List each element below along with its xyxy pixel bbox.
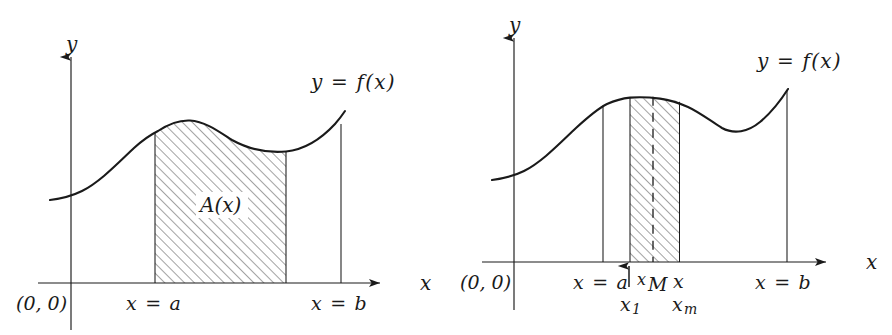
right-shaded-strip: [626, 92, 684, 267]
left-panel: y x (0, 0) y = f(x) x = a x = b A(x): [16, 32, 431, 330]
right-x1-subscript-base: 1: [632, 301, 641, 317]
right-xm-subscript: m: [684, 301, 697, 317]
left-area-label: A(x): [198, 193, 241, 217]
right-upper-bound-label: x = b: [755, 271, 812, 293]
left-y-axis-label: y: [65, 32, 78, 56]
left-x-axis-label: x: [420, 271, 431, 295]
right-x1-base: x: [620, 293, 631, 315]
right-origin-label: (0, 0): [460, 271, 511, 293]
right-strip-left-label: x: [637, 270, 646, 289]
right-lower-bound-label: x = a: [573, 271, 629, 293]
calculus-area-figure: y x (0, 0) y = f(x) x = a x = b A(x): [0, 0, 892, 335]
right-y-axis-label: y: [508, 13, 521, 37]
left-upper-bound-label: x = b: [311, 292, 368, 314]
left-curve-label: y = f(x): [310, 70, 396, 94]
right-panel: y x (0, 0) y = f(x) x = a x M x 1 x x m …: [460, 13, 877, 317]
right-midpoint-m-label: M: [647, 273, 668, 295]
right-xm-base: x: [672, 293, 683, 315]
right-x-axis-label: x: [866, 250, 877, 274]
right-strip-right-label: x: [673, 270, 684, 292]
right-curve-label: y = f(x): [756, 49, 842, 73]
left-origin-label: (0, 0): [16, 292, 67, 314]
left-lower-bound-label: x = a: [126, 292, 182, 314]
left-area-label-group: A(x): [196, 192, 248, 218]
figure-root: y x (0, 0) y = f(x) x = a x = b A(x): [0, 0, 892, 335]
